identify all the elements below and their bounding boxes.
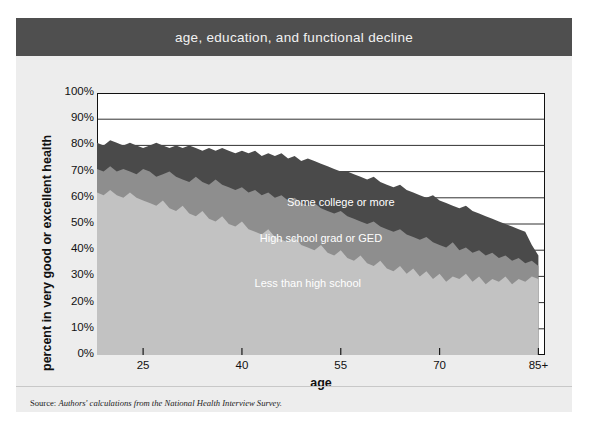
- x-tick-label: 85+: [529, 359, 549, 371]
- y-tick-label: 40%: [48, 242, 94, 254]
- figure-panel: age, education, and functional decline p…: [16, 18, 572, 412]
- x-tick-label: 25: [137, 359, 150, 371]
- y-tick-label: 80%: [48, 137, 94, 149]
- y-tick-label: 0%: [48, 347, 94, 359]
- divider: [16, 386, 572, 387]
- source-text: Authors' calculations from the National …: [58, 398, 282, 408]
- chart-title: age, education, and functional decline: [16, 18, 572, 56]
- x-tick-label: 40: [236, 359, 249, 371]
- plot-area: Some college or moreHigh school grad or …: [97, 93, 545, 355]
- y-tick-label: 50%: [48, 216, 94, 228]
- y-tick-label: 100%: [48, 85, 94, 97]
- series-annotation: High school grad or GED: [260, 232, 382, 244]
- x-tick-label: 70: [433, 359, 446, 371]
- series-annotation: Some college or more: [287, 196, 395, 208]
- source-note: Source: Authors' calculations from the N…: [30, 398, 550, 408]
- series-annotation: Less than high school: [255, 277, 361, 289]
- chart-body: percent in very good or excellent health…: [16, 56, 572, 412]
- x-tick-label: 55: [334, 359, 347, 371]
- x-axis-label: age: [97, 376, 545, 390]
- y-tick-label: 70%: [48, 164, 94, 176]
- y-tick-label: 90%: [48, 111, 94, 123]
- y-tick-label: 20%: [48, 295, 94, 307]
- y-tick-label: 30%: [48, 268, 94, 280]
- y-axis-ticks: 100%90%80%70%60%50%40%30%20%10%0%: [44, 56, 94, 412]
- source-prefix: Source:: [30, 398, 58, 408]
- area-chart-svg: Some college or moreHigh school grad or …: [97, 93, 545, 355]
- y-tick-label: 60%: [48, 190, 94, 202]
- title-bar: age, education, and functional decline: [16, 18, 572, 56]
- y-tick-label: 10%: [48, 321, 94, 333]
- x-axis-ticks: 2540557085+: [97, 359, 545, 377]
